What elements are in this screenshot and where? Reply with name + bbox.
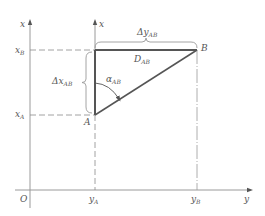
azimuth-label: αAB	[106, 74, 121, 85]
delta-x-label: ΔxAB	[51, 76, 73, 87]
inner-x-axis-label: x	[99, 19, 104, 29]
delta-y-brace	[95, 38, 197, 48]
y-axis-label: y	[243, 194, 250, 204]
outer-x-axis-label: x	[20, 19, 25, 29]
origin-label: O	[20, 194, 28, 204]
delta-x-brace	[82, 52, 92, 113]
ya-label: yA	[88, 194, 99, 205]
xb-label: xB	[15, 45, 25, 56]
coordinate-diagram: x x y O xB xA yA yB A B ΔyAB ΔxAB DAB αA…	[0, 0, 265, 216]
point-a-label: A	[83, 117, 91, 127]
azimuth-arc	[95, 83, 119, 99]
distance-label: DAB	[133, 54, 151, 65]
delta-y-label: ΔyAB	[136, 27, 158, 38]
yb-label: yB	[190, 194, 201, 205]
point-b-label: B	[200, 43, 208, 53]
xa-label: xA	[15, 109, 25, 120]
